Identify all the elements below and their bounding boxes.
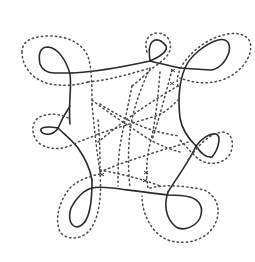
solid-loop-bottom-right [166,192,202,229]
solid-edge-bottom [92,187,168,195]
dotted-web-line [92,104,100,172]
dotted-web-line [118,86,132,186]
dotted-web-line [98,100,178,134]
dotted-ring-bottom-left [58,120,101,238]
solid-curve [39,40,229,229]
crossing-mark [100,173,104,176]
dotted-ring-top-small [132,33,171,86]
crossing-markers [100,69,175,182]
dotted-interior-web [88,68,188,188]
solid-loop-top-small [149,40,180,68]
curve-diagram [0,0,255,262]
solid-loop-top-right [180,40,229,71]
solid-edge-right [179,68,196,146]
dotted-ring-bottom-right [142,186,218,242]
crossing-mark [170,82,174,85]
solid-loop-bottom-left [70,180,92,227]
dotted-ring-left-small [33,114,98,148]
solid-edge-left [58,128,92,180]
solid-loop-left-small [41,106,70,134]
dotted-web-line [152,70,172,140]
dotted-web-line [100,142,188,172]
dotted-ring-top-left [22,36,92,104]
